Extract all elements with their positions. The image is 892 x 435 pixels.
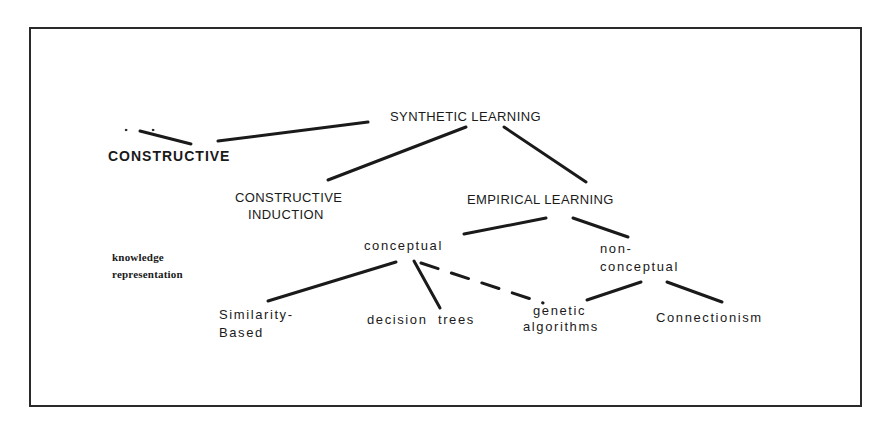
node-nonconceptual-line2: conceptual <box>600 258 679 275</box>
node-decision-trees: decision trees <box>367 311 475 328</box>
edge-empirical-conceptual <box>464 218 546 234</box>
node-empirical-learning: EMPIRICAL LEARNING <box>467 191 614 208</box>
node-connectionism: Connectionism <box>656 309 763 326</box>
edge-constructive-stub <box>140 131 191 144</box>
node-nonconceptual-line1: non- <box>600 240 632 257</box>
node-genetic-line2: algorithms <box>523 318 599 335</box>
node-conceptual: conceptual <box>364 237 443 254</box>
node-similarity-line1: Similarity- <box>219 306 294 323</box>
edge-synthetic-constructive-induction <box>328 127 466 180</box>
edge-empirical-nonconceptual <box>573 218 628 237</box>
edge-synthetic-constructive <box>218 122 368 141</box>
edge-conceptual-similarity <box>268 262 396 301</box>
edge-conceptual-genetic-dashed <box>421 263 543 303</box>
edge-synthetic-empirical <box>504 127 586 182</box>
side-note-line2: representation <box>112 266 183 283</box>
node-similarity-line2: Based <box>219 324 264 341</box>
node-constructive: CONSTRUCTIVE <box>108 148 230 165</box>
node-synthetic-learning: SYNTHETIC LEARNING <box>390 108 541 125</box>
node-constructive-induction-line2: INDUCTION <box>248 206 324 223</box>
tree-edges <box>0 0 892 435</box>
side-note-line1: knowledge <box>112 249 164 266</box>
node-genetic-line1: genetic <box>533 302 586 319</box>
edge-nonconceptual-connectionism <box>667 282 722 302</box>
node-constructive-induction-line1: CONSTRUCTIVE <box>235 189 342 206</box>
edge-nonconceptual-genetic <box>587 282 641 300</box>
